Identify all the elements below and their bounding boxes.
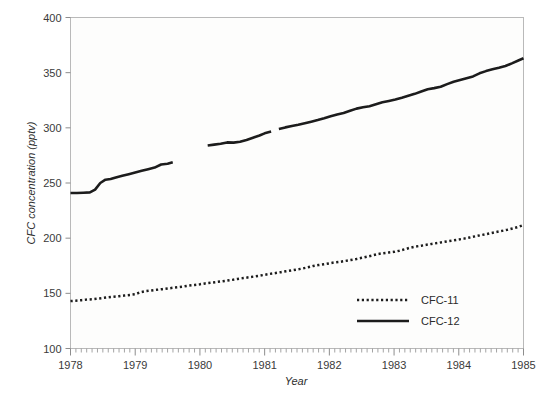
cfc-concentration-chart: 100150200250300350400 197819791980198119… — [0, 0, 549, 401]
x-tick-label: 1980 — [188, 359, 212, 371]
x-tick-label: 1984 — [447, 359, 471, 371]
y-tick-label: 100 — [43, 343, 61, 355]
x-tick-label: 1979 — [123, 359, 147, 371]
x-tick-label: 1982 — [317, 359, 341, 371]
y-axis-title: CFC concentration (pptv) — [25, 121, 37, 244]
y-tick-label: 250 — [43, 177, 61, 189]
x-axis-title: Year — [285, 375, 309, 387]
x-tick-label: 1978 — [58, 359, 82, 371]
legend-label-cfc-11: CFC-11 — [421, 294, 459, 306]
x-tick-label: 1983 — [382, 359, 406, 371]
y-tick-label: 350 — [43, 67, 61, 79]
legend-label-cfc-12: CFC-12 — [421, 315, 460, 327]
y-tick-label: 300 — [43, 122, 61, 134]
x-tick-label: 1985 — [511, 359, 535, 371]
chart-canvas: 100150200250300350400 197819791980198119… — [0, 0, 549, 401]
y-tick-label: 400 — [43, 12, 61, 24]
y-tick-label: 200 — [43, 232, 61, 244]
x-tick-label: 1981 — [252, 359, 276, 371]
y-tick-label: 150 — [43, 287, 61, 299]
